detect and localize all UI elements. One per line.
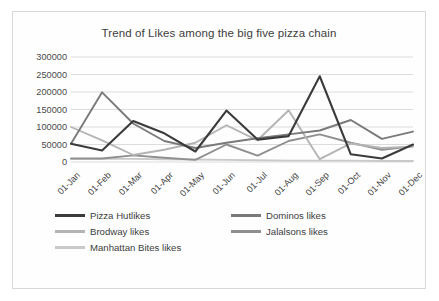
legend-color-swatch	[55, 246, 85, 249]
legend-label: Jalalsons likes	[266, 226, 328, 237]
legend-label: Pizza Hutlikes	[90, 210, 150, 221]
legend-item[interactable]: Dominos likes	[231, 210, 326, 221]
legend-label: Brodway likes	[90, 226, 149, 237]
legend-item[interactable]: Manhattan Bites likes	[55, 242, 181, 253]
legend-color-swatch	[55, 230, 85, 233]
legend-row: Manhattan Bites likes	[55, 242, 415, 253]
legend-label: Manhattan Bites likes	[90, 242, 181, 253]
legend-row: Brodway likesJalalsons likes	[55, 226, 415, 237]
legend-color-swatch	[231, 230, 261, 233]
legend-item[interactable]: Jalalsons likes	[231, 226, 328, 237]
legend-color-swatch	[231, 214, 261, 217]
legend-item[interactable]: Pizza Hutlikes	[55, 210, 231, 221]
chart-container: Trend of Likes among the big five pizza …	[12, 11, 426, 289]
legend-item[interactable]: Brodway likes	[55, 226, 231, 237]
chart-legend: Pizza HutlikesDominos likesBrodway likes…	[55, 210, 415, 258]
legend-row: Pizza HutlikesDominos likes	[55, 210, 415, 221]
legend-color-swatch	[55, 214, 85, 217]
legend-label: Dominos likes	[266, 210, 326, 221]
